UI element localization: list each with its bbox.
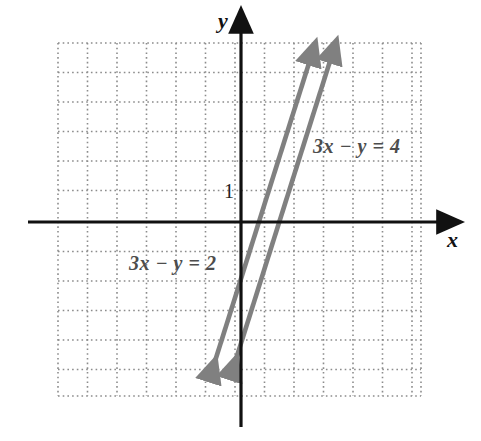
graph-figure: y x 1 3x − y = 4 3x − y = 2 — [0, 0, 481, 441]
line-3x-minus-y-equals-4 — [231, 58, 331, 375]
y-axis-label: y — [218, 8, 228, 34]
equation-label-3x-minus-y-equals-2: 3x − y = 2 — [129, 252, 216, 275]
coordinate-plane-svg — [0, 0, 481, 441]
x-axis-label: x — [447, 227, 458, 253]
equation-label-3x-minus-y-equals-4: 3x − y = 4 — [313, 135, 400, 158]
line-3x-minus-y-equals-2 — [210, 60, 310, 377]
y-axis-tick-label-1: 1 — [224, 180, 234, 203]
